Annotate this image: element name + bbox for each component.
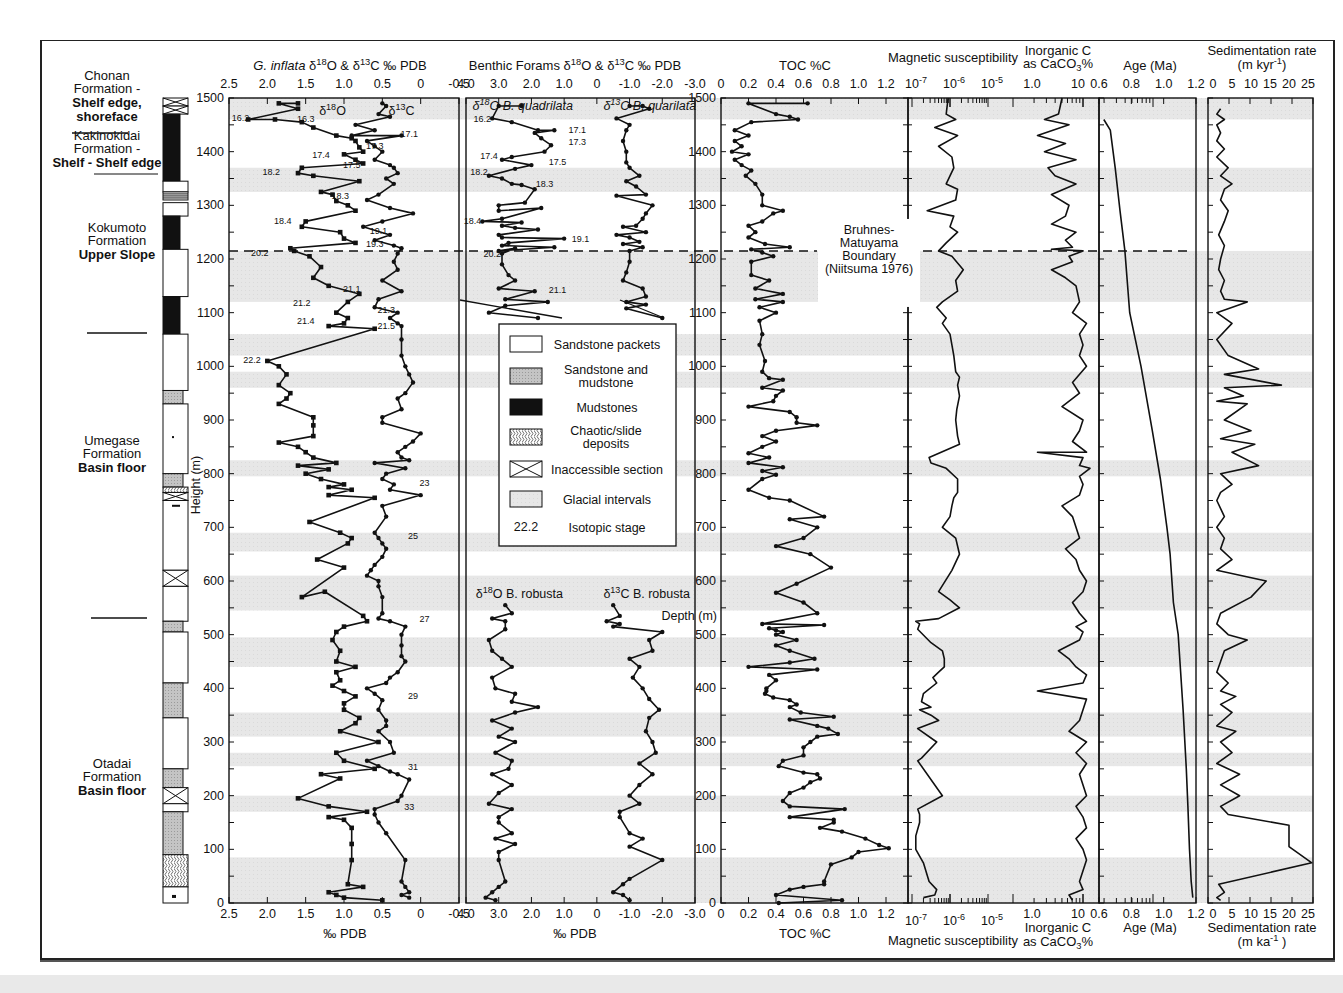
marker-circle (815, 772, 819, 776)
x-tick-label-bottom: -3.0 (684, 907, 706, 921)
marker-circle (788, 717, 792, 721)
marker-circle (392, 166, 396, 170)
marker-circle (856, 850, 860, 854)
marker-circle (763, 242, 767, 246)
marker-square (376, 740, 381, 745)
toc-title: TOC %C (779, 58, 831, 73)
legend-label: mudstone (579, 376, 634, 390)
marker-circle (788, 887, 792, 891)
marker-circle (403, 624, 407, 628)
marker-circle (407, 458, 411, 462)
marker-circle (490, 772, 494, 776)
marker-circle (781, 465, 785, 469)
marker-circle (627, 249, 631, 253)
marker-square (334, 133, 339, 138)
marker-circle (372, 305, 376, 309)
marker-circle (753, 230, 757, 234)
marker-square (346, 300, 351, 305)
marker-circle (760, 469, 764, 473)
marker-circle (822, 882, 826, 886)
marker-circle (788, 498, 792, 502)
marker-circle (822, 514, 826, 518)
marker-circle (380, 611, 384, 615)
text-span: (m ka (1238, 934, 1271, 949)
marker-square (334, 461, 339, 466)
marker-square (296, 101, 301, 106)
marker-circle (640, 217, 644, 221)
marker-square (349, 487, 354, 492)
marker-square (311, 125, 316, 130)
marker-square (326, 493, 331, 498)
x-tick-label-top: 2.5 (220, 77, 237, 91)
marker-circle (361, 225, 365, 229)
marker-circle (497, 791, 501, 795)
x-tick-label-bottom: 0 (718, 907, 725, 921)
age-box (1099, 98, 1196, 903)
depth-tick-label: 200 (695, 789, 716, 803)
marker-circle (640, 836, 644, 840)
marker-square (349, 536, 354, 541)
marker-circle (395, 321, 399, 325)
marker-circle (771, 211, 775, 215)
marker-circle (815, 724, 819, 728)
lith-sand_mud (163, 812, 183, 855)
x-tick-label-bottom: 1.0 (1155, 907, 1172, 921)
x-tick-label-bottom: -1.0 (619, 907, 641, 921)
marker-square (353, 139, 358, 144)
x-tick-label-top: -2.0 (652, 77, 674, 91)
marker-circle (497, 850, 501, 854)
marker-circle (760, 203, 764, 207)
marker-circle (794, 420, 798, 424)
marker-circle (794, 581, 798, 585)
marker-square (338, 729, 343, 734)
marker-circle (388, 316, 392, 320)
marker-circle (767, 496, 771, 500)
x-tick-label-bottom: 15 (1263, 907, 1277, 921)
marker-circle (788, 649, 792, 653)
x-tick-label-bottom: 0 (593, 907, 600, 921)
isotopic-stage-label: 18.4 (464, 216, 482, 226)
x-tick-label-top: 10 (1244, 77, 1258, 91)
marker-circle (746, 235, 750, 239)
marker-square (357, 716, 362, 721)
text-span: 10 (905, 914, 919, 928)
marker-circle (380, 415, 384, 419)
marker-circle (644, 211, 648, 215)
marker-circle (510, 611, 514, 615)
marker-circle (493, 836, 497, 840)
marker-circle (503, 879, 507, 883)
marker-circle (749, 168, 753, 172)
marker-square (380, 898, 385, 903)
marker-circle (506, 241, 510, 245)
marker-circle (384, 176, 388, 180)
marker-circle (763, 692, 767, 696)
lith-sand_mud (163, 390, 183, 403)
age-bottom-title: Age (Ma) (1123, 920, 1176, 935)
x-tick-label-top: 0.6 (795, 77, 812, 91)
marker-circle (395, 772, 399, 776)
marker-circle (757, 319, 761, 323)
annotation-text: (Niitsuma 1976) (825, 262, 913, 276)
glacial-band (459, 753, 466, 766)
x-tick-label-bottom: 0.2 (740, 907, 757, 921)
marker-circle (392, 259, 396, 263)
isotopic-stage-label: 21.4 (297, 316, 315, 326)
legend-label: Isotopic stage (568, 521, 645, 535)
marker-circle (624, 179, 628, 183)
marker-circle (774, 310, 778, 314)
isotopic-stage-label: 20.2 (483, 249, 501, 259)
glacial-band (466, 712, 1313, 736)
marker-circle (392, 243, 396, 247)
marker-circle (753, 286, 757, 290)
glacial-band (459, 576, 466, 611)
marker-circle (746, 404, 750, 408)
marker-circle (399, 643, 403, 647)
marker-circle (510, 665, 514, 669)
marker-square (361, 885, 366, 890)
marker-circle (781, 209, 785, 213)
isotopic-stage-label: 17.4 (312, 150, 330, 160)
marker-circle (767, 455, 771, 459)
text-span: ‰ PDB (553, 926, 596, 941)
marker-circle (627, 235, 631, 239)
text-span: δ (388, 104, 395, 118)
